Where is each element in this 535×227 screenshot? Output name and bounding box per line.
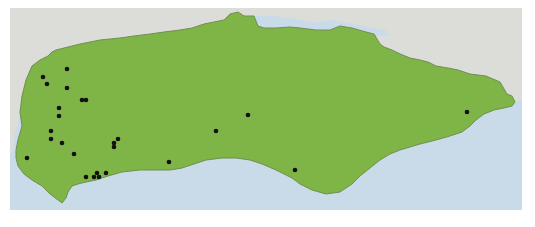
occurrence-point bbox=[167, 160, 172, 165]
occurrence-point bbox=[246, 113, 251, 118]
occurrence-point bbox=[41, 75, 46, 80]
occurrence-point bbox=[95, 171, 100, 176]
occurrence-point bbox=[84, 98, 89, 103]
occurrence-point bbox=[80, 98, 85, 103]
occurrence-point bbox=[65, 67, 70, 72]
occurrence-point bbox=[112, 145, 117, 150]
occurrence-point bbox=[65, 86, 70, 91]
occurrence-point bbox=[49, 129, 54, 134]
occurrence-point bbox=[49, 137, 54, 142]
occurrence-point bbox=[60, 141, 65, 146]
distribution-map bbox=[0, 0, 535, 227]
occurrence-point bbox=[214, 129, 219, 134]
map-canvas bbox=[0, 0, 535, 227]
occurrence-point bbox=[104, 171, 109, 176]
occurrence-point bbox=[57, 106, 62, 111]
occurrence-point bbox=[57, 114, 62, 119]
occurrence-point bbox=[92, 175, 97, 180]
occurrence-point bbox=[293, 168, 298, 173]
occurrence-point bbox=[84, 175, 89, 180]
occurrence-point bbox=[112, 141, 117, 146]
occurrence-point bbox=[25, 156, 30, 161]
occurrence-point bbox=[97, 175, 102, 180]
occurrence-point bbox=[116, 137, 121, 142]
occurrence-point bbox=[72, 152, 77, 157]
occurrence-point bbox=[45, 82, 50, 87]
occurrence-point bbox=[465, 110, 470, 115]
